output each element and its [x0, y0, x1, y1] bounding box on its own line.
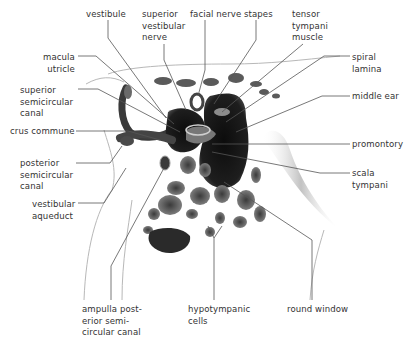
- label-crus-commune: crus commune: [10, 125, 75, 137]
- label-macula-utricle: macula utricle: [43, 51, 75, 74]
- label-ampulla-posterior-semicircular-canal: ampulla post- erior semi- circular canal: [82, 303, 142, 338]
- label-round-window: round window: [287, 303, 348, 315]
- label-tensor-tympani-muscle: tensor tympani muscle: [292, 8, 328, 43]
- anatomy-diagram: vestibule superior vestibular nerve faci…: [0, 0, 412, 348]
- label-scala-tympani: scala tympani: [352, 167, 388, 190]
- label-vestibule: vestibule: [86, 8, 126, 20]
- label-vestibular-aqueduct: vestibular aqueduct: [32, 198, 75, 221]
- label-superior-semicircular-canal: superior semicircular canal: [20, 84, 73, 119]
- label-facial-nerve: facial nerve: [190, 8, 241, 20]
- label-posterior-semicircular-canal: posterior semicircular canal: [20, 157, 73, 192]
- label-superior-vestibular-nerve: superior vestibular nerve: [142, 8, 185, 43]
- label-hypotympanic-cells: hypotympanic cells: [188, 303, 250, 326]
- lower-cell: [149, 228, 191, 253]
- label-promontory: promontory: [352, 138, 403, 150]
- label-middle-ear: middle ear: [352, 90, 399, 102]
- facial-nerve-canal: [191, 94, 203, 110]
- label-spiral-lamina: spiral lamina: [352, 51, 382, 74]
- label-stapes: stapes: [244, 8, 273, 20]
